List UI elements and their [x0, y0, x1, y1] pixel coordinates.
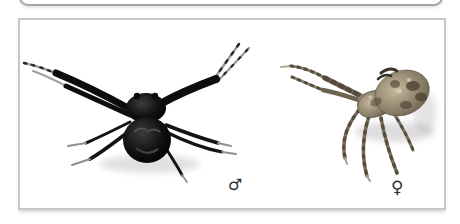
- female-symbol: ♀: [391, 179, 403, 196]
- male-spider-photo: [20, 33, 252, 195]
- female-spider-photo: [275, 40, 447, 195]
- figure-frame-top-edge: [19, 0, 443, 6]
- male-symbol: ♂: [228, 177, 242, 193]
- male-spider-body: [123, 93, 171, 163]
